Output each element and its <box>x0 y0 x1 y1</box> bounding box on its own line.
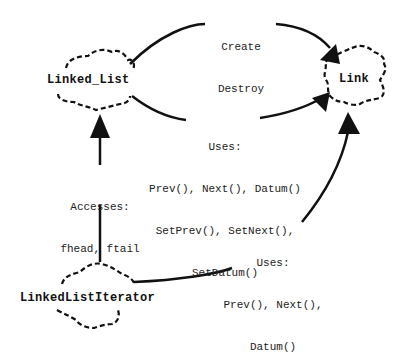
label-line: Uses: <box>145 140 305 154</box>
label-line: Destroy <box>205 82 277 96</box>
arrowhead-accesses <box>90 114 110 138</box>
edge-label-accesses: Accesses: fhead, ftail <box>50 172 150 270</box>
node-linked-list[interactable]: Linked_List <box>47 73 130 87</box>
label-line: Uses: <box>218 256 328 270</box>
label-line: Prev(), Next(), <box>218 298 328 312</box>
label-line: Datum() <box>218 340 328 354</box>
node-link[interactable]: Link <box>339 72 369 86</box>
edge-label-create-destroy: Create Destroy <box>205 12 277 110</box>
label-line: Prev(), Next(), Datum() <box>145 182 305 196</box>
label-line: Accesses: <box>50 200 150 214</box>
edge-label-uses-iterator-link: Uses: Prev(), Next(), Datum() <box>218 228 328 356</box>
label-line: Create <box>205 40 277 54</box>
arrowhead-uses-iterator-link <box>338 112 360 134</box>
edge-create-destroy <box>130 24 205 64</box>
label-line: fhead, ftail <box>50 242 150 256</box>
node-linked-list-iterator[interactable]: LinkedListIterator <box>20 291 155 305</box>
